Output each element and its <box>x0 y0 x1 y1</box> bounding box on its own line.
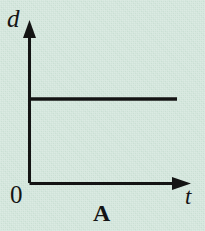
y-axis-label: d <box>7 6 20 31</box>
graph-figure-panel-a: d t 0 A <box>0 0 205 231</box>
x-axis-label: t <box>185 185 191 208</box>
y-axis-arrowhead-icon <box>23 20 36 38</box>
plot-area <box>0 0 205 231</box>
panel-label: A <box>93 201 110 225</box>
origin-label: 0 <box>10 182 23 207</box>
